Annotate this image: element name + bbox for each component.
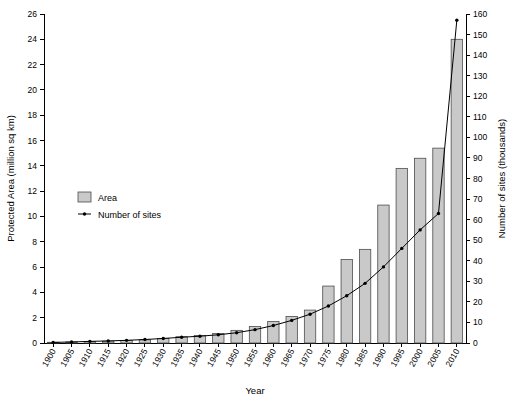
line-series-point [51, 341, 54, 344]
x-axis-tick-label: 1915 [95, 347, 113, 369]
y-axis-right-title: Number of sites (thousands) [496, 119, 507, 238]
x-axis-tick-label: 1910 [76, 347, 94, 369]
line-series-point [327, 304, 330, 307]
y-axis-left-tick-label: 2 [32, 313, 37, 323]
y-axis-right-tick-label: 150 [473, 30, 487, 40]
x-axis-tick-label: 1925 [132, 347, 150, 369]
y-axis-left-tick-label: 10 [28, 211, 38, 221]
y-axis-right-tick-label: 90 [473, 153, 483, 163]
line-series-point [107, 339, 110, 342]
bar [378, 205, 389, 343]
y-axis-right-tick-label: 20 [473, 297, 483, 307]
y-axis-right-tick-label: 40 [473, 256, 483, 266]
line-series-point [70, 340, 73, 343]
bar [323, 286, 334, 343]
x-axis-tick-label: 1930 [150, 347, 168, 369]
x-axis-tick-label: 1960 [260, 347, 278, 369]
x-axis-tick-label: 1940 [187, 347, 205, 369]
y-axis-right-tick-label: 160 [473, 9, 487, 19]
line-series-point [272, 324, 275, 327]
protected-area-and-sites-chart: 0246810121416182022242601020304050607080… [0, 0, 517, 405]
x-axis-tick-label: 1970 [297, 347, 315, 369]
y-axis-left-tick-label: 14 [28, 161, 38, 171]
x-axis-tick-label: 1980 [333, 347, 351, 369]
line-series-point [345, 294, 348, 297]
bar [433, 148, 444, 343]
x-axis-tick-label: 1955 [242, 347, 260, 369]
y-axis-left-tick-label: 24 [28, 34, 38, 44]
line-series-point [235, 331, 238, 334]
y-axis-right-tick-label: 100 [473, 132, 487, 142]
line-series-point [418, 228, 421, 231]
x-axis-tick-label: 1975 [315, 347, 333, 369]
bar [396, 168, 407, 343]
y-axis-right-tick-label: 0 [473, 338, 478, 348]
x-axis-tick-label: 2005 [425, 347, 443, 369]
x-axis-tick-label: 2000 [407, 347, 425, 369]
line-series-point [198, 335, 201, 338]
y-axis-right-tick-label: 130 [473, 71, 487, 81]
line-series-point [253, 328, 256, 331]
y-axis-right-tick-label: 10 [473, 317, 483, 327]
y-axis-left-tick-label: 6 [32, 262, 37, 272]
chart-container: 0246810121416182022242601020304050607080… [0, 0, 517, 405]
line-series-point [143, 338, 146, 341]
line-series-point [382, 265, 385, 268]
y-axis-left-tick-label: 22 [28, 60, 38, 70]
x-axis-title: Year [245, 385, 264, 396]
x-axis-tick-label: 1905 [58, 347, 76, 369]
x-axis-tick-label: 1900 [40, 347, 58, 369]
line-series-point [217, 333, 220, 336]
x-axis-tick-label: 2010 [443, 347, 461, 369]
y-axis-right-tick-label: 60 [473, 215, 483, 225]
line-series-point [180, 336, 183, 339]
y-axis-right-tick-label: 80 [473, 174, 483, 184]
x-axis-tick-label: 1965 [278, 347, 296, 369]
bar-series-area [47, 39, 462, 343]
legend-label-area: Area [98, 193, 117, 203]
line-series-point [162, 337, 165, 340]
bar [341, 259, 352, 343]
bar [359, 249, 370, 343]
y-axis-right-tick-label: 30 [473, 276, 483, 286]
y-axis-left-tick-label: 8 [32, 237, 37, 247]
y-axis-left-tick-label: 20 [28, 85, 38, 95]
y-axis-left-tick-label: 16 [28, 136, 38, 146]
legend-label-number-of-sites: Number of sites [98, 210, 162, 220]
y-axis-right-tick-label: 110 [473, 112, 487, 122]
x-axis-tick-label: 1995 [388, 347, 406, 369]
y-axis-left-tick-label: 18 [28, 110, 38, 120]
y-axis-right-tick-label: 50 [473, 235, 483, 245]
line-series-point [455, 18, 458, 21]
x-axis-tick-label: 1935 [168, 347, 186, 369]
y-axis-right-tick-label: 70 [473, 194, 483, 204]
line-series-point [363, 282, 366, 285]
x-axis-tick-label: 1950 [223, 347, 241, 369]
x-axis-tick-label: 1945 [205, 347, 223, 369]
legend: AreaNumber of sites [78, 192, 162, 220]
bar [414, 158, 425, 343]
line-series-point [290, 319, 293, 322]
legend-swatch-sites-point [83, 212, 86, 215]
x-axis-tick-label: 1920 [113, 347, 131, 369]
y-axis-left-tick-label: 26 [28, 9, 38, 19]
legend-swatch-area [78, 192, 91, 202]
line-series-point [400, 247, 403, 250]
line-series-point [437, 212, 440, 215]
y-axis-left-tick-label: 12 [28, 186, 38, 196]
y-axis-right-tick-label: 140 [473, 50, 487, 60]
line-series-point [308, 313, 311, 316]
y-axis-left-tick-label: 0 [32, 338, 37, 348]
y-axis-left-title: Protected Area (million sq km) [5, 115, 16, 242]
line-series-point [88, 340, 91, 343]
y-axis-right-tick-label: 120 [473, 91, 487, 101]
bar [451, 39, 462, 343]
y-axis-left-tick-label: 4 [32, 287, 37, 297]
x-axis-tick-label: 1990 [370, 347, 388, 369]
x-axis-tick-label: 1985 [352, 347, 370, 369]
line-series-point [125, 339, 128, 342]
